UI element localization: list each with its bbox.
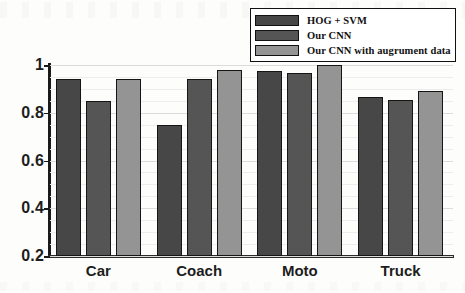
legend-item-3[interactable]: Our CNN with augrument data bbox=[255, 43, 451, 57]
y-axis-tick-labels: 0.20.40.60.81 bbox=[0, 65, 44, 256]
y-axis-tick-0.6 bbox=[44, 161, 50, 163]
y-axis-tick-0.8 bbox=[44, 113, 50, 115]
bar-coach-series-1[interactable] bbox=[157, 125, 182, 256]
y-axis-label-0.2: 0.2 bbox=[21, 247, 44, 265]
y-axis-label-1: 1 bbox=[35, 56, 44, 74]
y-axis-label-0.6: 0.6 bbox=[21, 152, 44, 170]
bar-truck-series-3[interactable] bbox=[418, 91, 443, 256]
bar-group-car bbox=[56, 65, 141, 256]
gridline-y-0.2 bbox=[50, 256, 453, 257]
bar-group-coach bbox=[157, 65, 242, 256]
legend-item-2[interactable]: Our CNN bbox=[255, 28, 451, 42]
bar-coach-series-3[interactable] bbox=[217, 70, 242, 256]
x-axis-label-coach: Coach bbox=[176, 262, 222, 279]
x-axis-label-truck: Truck bbox=[381, 262, 421, 279]
y-axis-tick-0.2 bbox=[44, 256, 50, 258]
legend-swatch-2 bbox=[255, 30, 299, 41]
scan-artifact-bottom bbox=[0, 282, 465, 291]
legend-label-1: HOG + SVM bbox=[307, 15, 367, 26]
legend-swatch-1 bbox=[255, 15, 299, 26]
chart-legend: HOG + SVMOur CNNOur CNN with augrument d… bbox=[250, 8, 456, 62]
y-axis-tick-1 bbox=[44, 65, 50, 67]
plot-area bbox=[50, 65, 453, 256]
x-axis-label-car: Car bbox=[86, 262, 111, 279]
y-axis-label-0.4: 0.4 bbox=[21, 199, 44, 217]
bar-car-series-3[interactable] bbox=[116, 79, 141, 256]
bar-car-series-1[interactable] bbox=[56, 79, 81, 256]
bar-moto-series-2[interactable] bbox=[287, 73, 312, 256]
legend-swatch-3 bbox=[255, 45, 299, 56]
bar-car-series-2[interactable] bbox=[86, 101, 111, 256]
legend-label-3: Our CNN with augrument data bbox=[307, 45, 451, 56]
figure-canvas: 0.20.40.60.81 HOG + SVMOur CNNOur CNN wi… bbox=[0, 0, 465, 293]
legend-item-1[interactable]: HOG + SVM bbox=[255, 13, 451, 27]
bar-truck-series-2[interactable] bbox=[388, 100, 413, 256]
y-axis-label-0.8: 0.8 bbox=[21, 104, 44, 122]
bar-moto-series-1[interactable] bbox=[257, 71, 282, 256]
y-axis-tick-0.4 bbox=[44, 208, 50, 210]
bar-moto-series-3[interactable] bbox=[317, 65, 342, 256]
bar-group-moto bbox=[257, 65, 342, 256]
bar-group-truck bbox=[358, 65, 443, 256]
bar-coach-series-2[interactable] bbox=[187, 79, 212, 256]
x-axis-label-moto: Moto bbox=[282, 262, 318, 279]
legend-label-2: Our CNN bbox=[307, 30, 352, 41]
bar-truck-series-1[interactable] bbox=[358, 97, 383, 256]
